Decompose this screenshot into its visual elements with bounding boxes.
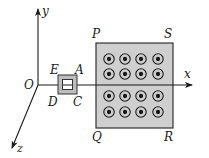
z-axis-label: z <box>16 142 23 155</box>
diagram-canvas: y x z O E A D C P S Q R <box>0 0 209 158</box>
y-axis-label: y <box>41 4 49 18</box>
loop-label-a: A <box>74 63 84 77</box>
region-label-s: S <box>164 27 172 41</box>
z-axis <box>12 85 38 148</box>
x-axis-label: x <box>184 67 191 81</box>
region-label-r: R <box>163 130 173 144</box>
region-label-p: P <box>91 27 101 41</box>
loop-label-c: C <box>73 95 82 109</box>
loop-label-d: D <box>47 95 58 109</box>
origin-label: O <box>24 78 34 92</box>
region-label-q: Q <box>92 130 102 144</box>
loop-label-e: E <box>49 63 59 77</box>
